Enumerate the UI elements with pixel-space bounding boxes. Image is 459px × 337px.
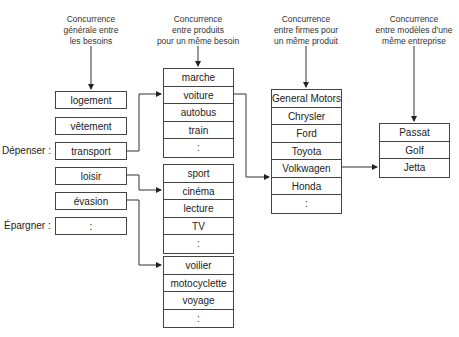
header-line: Concurrence bbox=[256, 14, 356, 25]
header-firms: Concurrence entre firmes pour un même pr… bbox=[256, 14, 356, 47]
need-box: vêtement bbox=[55, 117, 127, 135]
product-group-escape: voilier motocyclette voyage : bbox=[163, 256, 234, 328]
product-cell: : bbox=[164, 235, 233, 253]
firm-cell: Ford bbox=[272, 125, 341, 143]
label-spend: Dépenser : bbox=[2, 145, 51, 157]
header-line: pour un même besoin bbox=[145, 36, 251, 47]
header-line: Concurrence bbox=[46, 14, 136, 25]
firms-column: General Motors Chrysler Ford Toyota Volk… bbox=[271, 89, 342, 214]
product-cell: autobus bbox=[164, 104, 233, 122]
header-line: entre modèles d'une bbox=[360, 25, 459, 36]
header-models: Concurrence entre modèles d'une même ent… bbox=[360, 14, 459, 47]
product-cell: marche bbox=[164, 69, 233, 87]
need-box: évasion bbox=[55, 192, 127, 210]
product-group-transport: marche voiture autobus train : bbox=[163, 68, 234, 158]
product-group-leisure: sport cinéma lecture TV : bbox=[163, 164, 234, 254]
model-cell: Jetta bbox=[380, 159, 449, 177]
model-cell: Passat bbox=[380, 124, 449, 142]
firm-cell: Volkwagen bbox=[272, 160, 341, 178]
firm-cell: Toyota bbox=[272, 143, 341, 161]
product-cell: lecture bbox=[164, 200, 233, 218]
need-box: logement bbox=[55, 91, 127, 109]
product-cell: cinéma bbox=[164, 183, 233, 201]
model-cell: Golf bbox=[380, 142, 449, 160]
product-cell: : bbox=[164, 139, 233, 157]
product-cell: voyage bbox=[164, 292, 233, 310]
firm-cell: : bbox=[272, 195, 341, 213]
header-products: Concurrence entre produits pour un même … bbox=[145, 14, 251, 47]
product-cell: TV bbox=[164, 218, 233, 236]
need-box: loisir bbox=[55, 167, 127, 185]
header-line: générale entre bbox=[46, 25, 136, 36]
header-line: entre produits bbox=[145, 25, 251, 36]
need-box: : bbox=[55, 217, 127, 235]
label-save: Épargner : bbox=[4, 220, 51, 232]
firm-cell: Chrysler bbox=[272, 108, 341, 126]
product-cell: : bbox=[164, 310, 233, 328]
product-cell: sport bbox=[164, 165, 233, 183]
header-needs: Concurrence générale entre les besoins bbox=[46, 14, 136, 47]
header-line: même entreprise bbox=[360, 36, 459, 47]
firm-cell: Honda bbox=[272, 178, 341, 196]
header-line: un même produit bbox=[256, 36, 356, 47]
product-cell: voiture bbox=[164, 87, 233, 105]
product-cell: voilier bbox=[164, 257, 233, 275]
header-line: Concurrence bbox=[360, 14, 459, 25]
need-box: transport bbox=[55, 142, 127, 160]
header-line: les besoins bbox=[46, 36, 136, 47]
product-cell: train bbox=[164, 122, 233, 140]
header-line: entre firmes pour bbox=[256, 25, 356, 36]
header-line: Concurrence bbox=[145, 14, 251, 25]
product-cell: motocyclette bbox=[164, 275, 233, 293]
firm-cell: General Motors bbox=[272, 90, 341, 108]
models-column: Passat Golf Jetta bbox=[379, 123, 450, 178]
